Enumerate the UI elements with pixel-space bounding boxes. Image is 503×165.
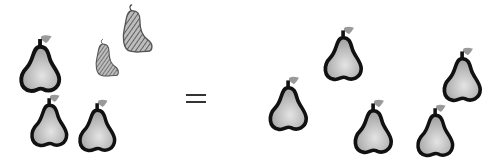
pear-icon xyxy=(76,98,120,154)
equals-bar-top xyxy=(186,94,206,96)
equals-bar-bottom xyxy=(186,101,206,103)
pear-icon xyxy=(414,103,458,159)
sketched-pear-icon xyxy=(116,3,156,57)
pear-icon xyxy=(440,46,486,104)
pear-icon xyxy=(351,98,397,156)
pear-icon xyxy=(17,33,65,95)
pear-icon xyxy=(28,93,72,149)
pear-icon xyxy=(266,75,312,133)
pear-icon xyxy=(321,25,367,83)
pear-equation-diagram xyxy=(0,0,503,165)
equals-sign xyxy=(186,94,206,104)
